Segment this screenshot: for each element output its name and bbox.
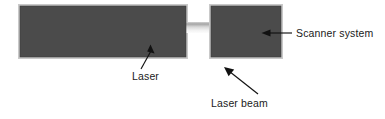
laser-beam-shape [186, 22, 211, 33]
laser-beam-label: Laser beam [211, 97, 268, 109]
diagram-canvas: Laser Scanner system Laser beam [0, 0, 385, 119]
laser-beam-arrow-head [224, 67, 234, 76]
laser-box [20, 6, 186, 57]
laser-label: Laser [132, 70, 159, 82]
laser-beam-leader [224, 67, 258, 94]
laser-scanner-diagram: Laser Scanner system Laser beam [0, 0, 385, 119]
scanner-system-label: Scanner system [296, 27, 373, 39]
